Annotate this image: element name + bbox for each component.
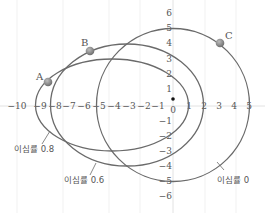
point-a-marker xyxy=(44,78,53,87)
svg-text:−3: −3 xyxy=(159,146,173,156)
svg-text:−1: −1 xyxy=(159,116,172,126)
label-eccentricity-0.8: 이심률 0.8 xyxy=(14,144,54,154)
svg-text:4: 4 xyxy=(231,101,237,111)
point-a-label: A xyxy=(35,71,44,82)
svg-text:6: 6 xyxy=(166,8,172,18)
point-c-marker xyxy=(216,39,225,48)
orbit-diagram: −10 −9 −8 −7 −6 −5 −4 −3 −2 −1 0 1 2 3 4… xyxy=(0,0,265,213)
svg-text:−6: −6 xyxy=(77,101,91,111)
svg-text:−7: −7 xyxy=(62,101,76,111)
leader-0.6 xyxy=(90,163,96,175)
svg-text:−10: −10 xyxy=(8,101,27,111)
svg-text:−4: −4 xyxy=(107,101,121,111)
svg-text:1: 1 xyxy=(166,84,172,94)
point-c-label: C xyxy=(225,30,233,41)
point-b-label: B xyxy=(81,37,88,48)
svg-text:3: 3 xyxy=(216,101,222,111)
svg-text:−4: −4 xyxy=(159,161,173,171)
svg-text:0: 0 xyxy=(170,105,176,115)
svg-text:−2: −2 xyxy=(137,101,150,111)
svg-text:−1: −1 xyxy=(151,101,164,111)
svg-text:−2: −2 xyxy=(159,131,172,141)
svg-text:−5: −5 xyxy=(92,101,106,111)
leader-0.8 xyxy=(42,131,50,144)
svg-text:−6: −6 xyxy=(159,191,173,201)
focus-point xyxy=(171,97,175,101)
x-tick-labels: −10 −9 −8 −7 −6 −5 −4 −3 −2 −1 0 1 2 3 4… xyxy=(8,101,253,115)
label-eccentricity-0: 이심률 0 xyxy=(217,175,249,185)
label-eccentricity-0.6: 이심률 0.6 xyxy=(64,175,104,185)
diagram-canvas: −10 −9 −8 −7 −6 −5 −4 −3 −2 −1 0 1 2 3 4… xyxy=(0,0,265,213)
svg-text:4: 4 xyxy=(166,38,172,48)
svg-text:−3: −3 xyxy=(122,101,136,111)
